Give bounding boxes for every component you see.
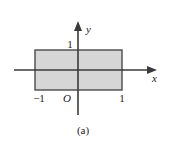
y-axis-arrowhead <box>74 21 82 31</box>
y-tick-label-1: 1 <box>67 38 73 50</box>
figure-container: y x O 1 −1 1 (a) <box>0 0 170 145</box>
x-axis-label: x <box>151 72 157 84</box>
figure-caption: (a) <box>77 124 90 137</box>
x-tick-label-minus-1: −1 <box>33 92 45 104</box>
math-figure: y x O 1 −1 1 (a) <box>0 0 170 145</box>
origin-label: O <box>63 92 71 104</box>
y-axis-label: y <box>85 23 91 35</box>
x-tick-label-1: 1 <box>119 92 125 104</box>
